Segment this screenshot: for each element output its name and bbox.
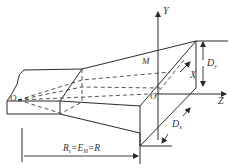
hidden-edges [18,60,184,114]
z-axis-label: Z [218,95,224,106]
y-axis-label: Y [163,5,170,16]
r-main: R [93,143,100,153]
hidden-line-4 [18,94,150,100]
tapered-block-diagram: Y Z X M O' O Dy Dx Rs=EM=R [0,0,230,168]
solid-edges [7,41,228,164]
left-slab-outline [7,69,82,114]
taper-lower-edge [60,101,140,133]
dx-arrow-bottom [162,134,168,143]
taper-front-left-edge [60,69,82,101]
dy-label: Dy [206,57,217,69]
origin-right-label: O' [150,91,159,101]
dy-label-sub: y [213,63,217,69]
dimension-arrows [24,42,203,156]
hidden-vertical [60,69,82,114]
dx-label: Dx [171,118,182,130]
hidden-inner-diag [155,60,184,96]
x-axis [180,62,190,72]
hidden-line-1 [18,72,170,100]
taper-top-edge [82,41,196,69]
dx-arrow-top [183,108,190,116]
point-m-label: M [141,56,150,66]
x-axis-label: X [189,69,197,80]
dx-label-sub: x [178,124,182,130]
radius-label: Rs=EM=R [62,143,100,154]
origin-left-label: O [10,93,17,103]
hidden-line-3 [18,100,60,113]
